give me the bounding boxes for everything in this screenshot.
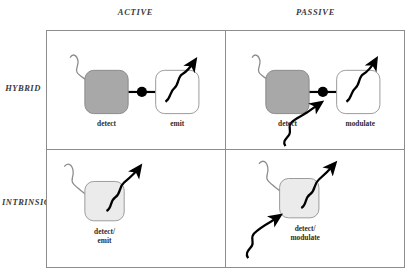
- block-detect: [266, 70, 309, 113]
- block-label-modulate: modulate: [346, 119, 376, 128]
- matrix-grid: detect emit: [46, 30, 405, 268]
- cell-hybrid-passive-graphic: detect modulate: [226, 31, 404, 149]
- cell-hybrid-active: detect emit: [46, 30, 226, 150]
- block-label-detect-emit-line2: emit: [98, 236, 112, 245]
- incoming-carrier-wave: [247, 216, 280, 258]
- column-header-passive: PASSIVE: [226, 7, 405, 17]
- block-label-emit: emit: [170, 119, 184, 128]
- column-header-active: ACTIVE: [46, 7, 225, 17]
- block-label-detect-modulate-line2: modulate: [290, 233, 320, 242]
- cell-hybrid-passive: detect modulate: [225, 30, 405, 150]
- block-detect-modulate: [280, 179, 319, 218]
- block-label-detect-modulate-line1: detect/: [295, 224, 317, 233]
- row-header-hybrid: HYBRID: [2, 83, 44, 93]
- cell-intrinsic-active: detect/ emit: [46, 149, 226, 268]
- block-emit: [156, 70, 199, 113]
- block-connector-node: [318, 87, 328, 97]
- block-label-detect: detect: [97, 119, 116, 128]
- cell-intrinsic-passive-graphic: detect/ modulate: [226, 150, 404, 267]
- cell-hybrid-active-graphic: detect emit: [47, 31, 225, 149]
- block-modulate: [337, 70, 380, 113]
- block-label-detect-emit-line1: detect/: [94, 227, 116, 236]
- block-label-detect: detect: [278, 119, 297, 128]
- block-detect-emit: [85, 181, 124, 220]
- block-connector-node: [137, 87, 147, 97]
- cell-intrinsic-passive: detect/ modulate: [225, 149, 405, 268]
- row-header-intrinsic: INTRINSIC: [2, 197, 44, 207]
- block-detect: [85, 70, 128, 113]
- cell-intrinsic-active-graphic: detect/ emit: [47, 150, 225, 267]
- figure-canvas: ACTIVE PASSIVE HYBRID INTRINSIC: [0, 0, 413, 277]
